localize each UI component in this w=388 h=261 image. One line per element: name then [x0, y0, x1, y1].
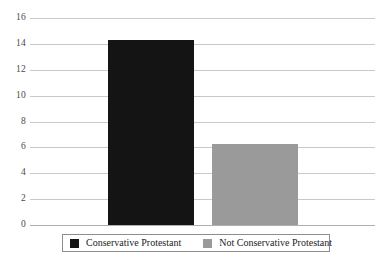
legend-swatch-icon — [70, 239, 79, 248]
y-axis-tick-label: 12 — [4, 65, 26, 75]
gridline — [30, 173, 375, 174]
gridline — [30, 147, 375, 148]
y-axis-tick-label: 10 — [4, 91, 26, 101]
legend-item-conservative-protestant[interactable]: Conservative Protestant — [70, 235, 181, 251]
chart-legend: Conservative Protestant Not Conservative… — [62, 234, 330, 252]
bar-chart: 1614121086420 Conservative Protestant No… — [0, 0, 388, 261]
y-axis-tick-label: 8 — [4, 117, 26, 127]
plot-area — [30, 18, 375, 225]
bar — [212, 144, 298, 225]
y-axis-tick-labels: 1614121086420 — [0, 18, 26, 225]
y-axis-tick-label: 16 — [4, 13, 26, 23]
y-axis-tick-label: 2 — [4, 194, 26, 204]
gridline — [30, 96, 375, 97]
legend-item-not-conservative-protestant[interactable]: Not Conservative Protestant — [203, 235, 332, 251]
gridline — [30, 44, 375, 45]
gridline — [30, 199, 375, 200]
gridline — [30, 122, 375, 123]
legend-item-label: Conservative Protestant — [86, 238, 181, 248]
gridline — [30, 225, 375, 226]
y-axis-tick-label: 0 — [4, 220, 26, 230]
y-axis-tick-label: 14 — [4, 39, 26, 49]
y-axis-tick-label: 6 — [4, 142, 26, 152]
y-axis-tick-label: 4 — [4, 168, 26, 178]
legend-item-label: Not Conservative Protestant — [219, 238, 332, 248]
gridline — [30, 18, 375, 19]
legend-swatch-icon — [203, 239, 212, 248]
bar — [108, 40, 194, 225]
gridline — [30, 70, 375, 71]
